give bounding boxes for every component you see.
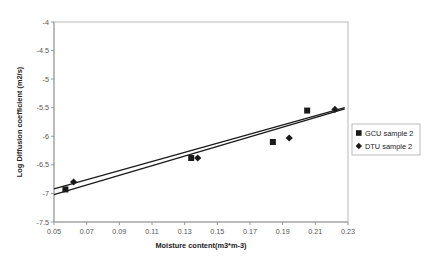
x-axis-tick-labels: 0.050.070.090.110.130.150.170.190.210.23	[47, 227, 355, 236]
x-tick-label: 0.21	[308, 227, 322, 236]
y-tick-label: -5	[43, 75, 49, 84]
chart-svg: -4-4.5-5-5.5-6-6.5-7-7.5 0.050.070.090.1…	[0, 0, 430, 268]
x-tick-label: 0.23	[341, 227, 355, 236]
plot-area-frame	[54, 22, 348, 222]
y-tick-label: -4	[43, 18, 49, 27]
chart-legend[interactable]: GCU sample 2DTU sample 2	[352, 124, 420, 155]
x-tick-label: 0.07	[80, 227, 94, 236]
y-tick-label: -6.5	[37, 160, 49, 169]
x-tick-label: 0.19	[276, 227, 290, 236]
y-tick-label: -7	[43, 189, 49, 198]
y-tick-label: -7.5	[37, 218, 49, 227]
data-point-marker	[194, 154, 201, 161]
y-axis-title: Log Diffusion coefficient (m2/s)	[15, 66, 24, 177]
x-tick-label: 0.15	[210, 227, 224, 236]
trend-line	[54, 108, 345, 189]
trend-line	[54, 109, 345, 195]
legend-marker-icon	[356, 130, 362, 136]
y-tick-label: -4.5	[37, 46, 49, 55]
trend-lines	[54, 108, 345, 195]
data-point-marker	[62, 186, 68, 192]
y-tick-label: -6	[43, 132, 49, 141]
x-axis-title: Moisture content(m3*m-3)	[155, 241, 247, 250]
y-axis-tick-labels: -4-4.5-5-5.5-6-6.5-7-7.5	[37, 18, 49, 227]
legend-entry-label[interactable]: DTU sample 2	[365, 142, 412, 151]
tick-marks	[51, 22, 348, 225]
data-point-marker	[270, 139, 276, 145]
x-tick-label: 0.09	[112, 227, 126, 236]
data-point-marker	[304, 108, 310, 114]
chart-container: -4-4.5-5-5.5-6-6.5-7-7.5 0.050.070.090.1…	[0, 0, 430, 268]
x-tick-label: 0.13	[178, 227, 192, 236]
x-tick-label: 0.17	[243, 227, 257, 236]
y-tick-label: -5.5	[37, 103, 49, 112]
data-point-marker	[188, 155, 194, 161]
axes	[54, 22, 348, 222]
data-point-marker	[286, 134, 293, 141]
x-tick-label: 0.05	[47, 227, 61, 236]
legend-entry-label[interactable]: GCU sample 2	[365, 129, 413, 138]
x-tick-label: 0.11	[145, 227, 158, 236]
